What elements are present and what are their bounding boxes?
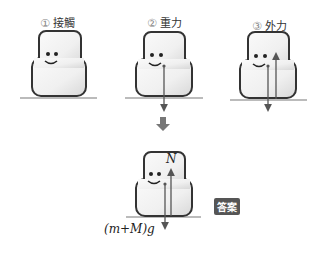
weight-label: (m+M)g xyxy=(104,222,155,236)
diagram-canvas xyxy=(0,0,320,254)
panel-2-figure xyxy=(125,32,203,108)
answer-badge: 答案 xyxy=(214,198,240,215)
down-arrow-icon xyxy=(156,117,170,131)
normal-force-label: N xyxy=(166,152,177,166)
panel-3-figure xyxy=(230,32,307,108)
panel-1-figure xyxy=(20,31,97,98)
answer-figure xyxy=(126,152,201,226)
